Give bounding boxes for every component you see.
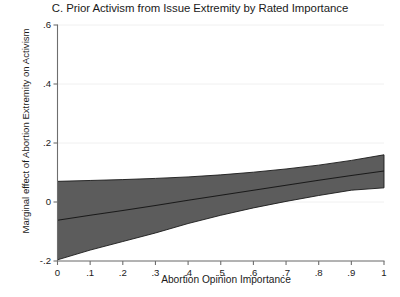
x-tick-label: .3 bbox=[151, 267, 159, 278]
x-tick-label: 1 bbox=[381, 267, 386, 278]
x-tick-label: .6 bbox=[249, 267, 257, 278]
x-tick-label: .2 bbox=[119, 267, 127, 278]
x-tick-label: .4 bbox=[184, 267, 193, 278]
ci-band-polygon bbox=[58, 155, 385, 260]
y-tick-label: -.2 bbox=[40, 255, 51, 266]
y-axis-ticks bbox=[54, 25, 58, 261]
y-tick-label: 0 bbox=[46, 196, 51, 207]
y-tick-label: .2 bbox=[43, 137, 51, 148]
x-tick-label: .5 bbox=[217, 267, 225, 278]
confidence-band bbox=[58, 155, 385, 260]
chart-figure: C. Prior Activism from Issue Extremity b… bbox=[0, 0, 400, 297]
y-tick-label: .6 bbox=[43, 19, 51, 30]
y-axis-tick-labels: -.20.2.4.6 bbox=[40, 19, 52, 266]
x-tick-label: .7 bbox=[282, 267, 290, 278]
x-axis-ticks bbox=[58, 261, 385, 265]
plot-area: 0.1.2.3.4.5.6.7.8.91 -.20.2.4.6 bbox=[0, 0, 400, 297]
x-tick-label: .9 bbox=[347, 267, 355, 278]
x-tick-label: .1 bbox=[86, 267, 94, 278]
x-axis-tick-labels: 0.1.2.3.4.5.6.7.8.91 bbox=[55, 267, 387, 278]
x-tick-label: 0 bbox=[55, 267, 60, 278]
y-tick-label: .4 bbox=[43, 78, 52, 89]
x-tick-label: .8 bbox=[315, 267, 323, 278]
